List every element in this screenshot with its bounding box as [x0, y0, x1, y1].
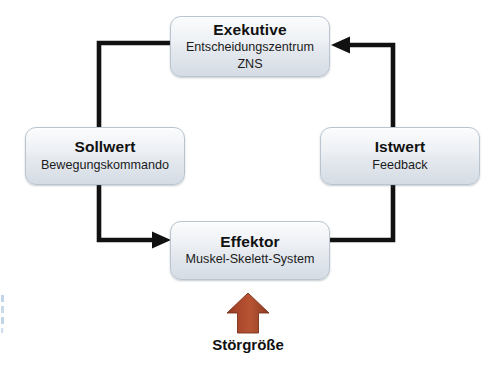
- node-exekutive-title: Exekutive: [213, 21, 286, 39]
- arrowhead-left-into-exekutive: [331, 37, 350, 54]
- node-istwert-title: Istwert: [375, 138, 426, 156]
- node-istwert[interactable]: Istwert Feedback: [320, 127, 480, 185]
- diagram-canvas: Exekutive Entscheidungszentrum ZNS Sollw…: [0, 0, 491, 367]
- up-arrow-shape: [227, 293, 269, 333]
- node-sollwert[interactable]: Sollwert Bewegungskommando: [25, 127, 185, 185]
- edge-artifact-fragment: [0, 293, 7, 337]
- disturbance-label: Störgröße: [160, 336, 336, 353]
- node-sollwert-subtitle-1: Bewegungskommando: [41, 158, 169, 174]
- node-exekutive-subtitle-1: Entscheidungszentrum: [186, 40, 314, 56]
- up-arrow-icon: [225, 292, 271, 334]
- node-effektor[interactable]: Effektor Muskel-Skelett-System: [170, 221, 330, 280]
- node-exekutive-subtitle-2: ZNS: [237, 57, 262, 73]
- node-effektor-title: Effektor: [220, 233, 279, 251]
- node-istwert-subtitle-1: Feedback: [372, 158, 427, 174]
- arrowhead-right-into-effektor: [152, 232, 171, 249]
- node-exekutive[interactable]: Exekutive Entscheidungszentrum ZNS: [170, 16, 330, 77]
- node-sollwert-title: Sollwert: [74, 138, 135, 156]
- node-effektor-subtitle-1: Muskel-Skelett-System: [186, 252, 315, 268]
